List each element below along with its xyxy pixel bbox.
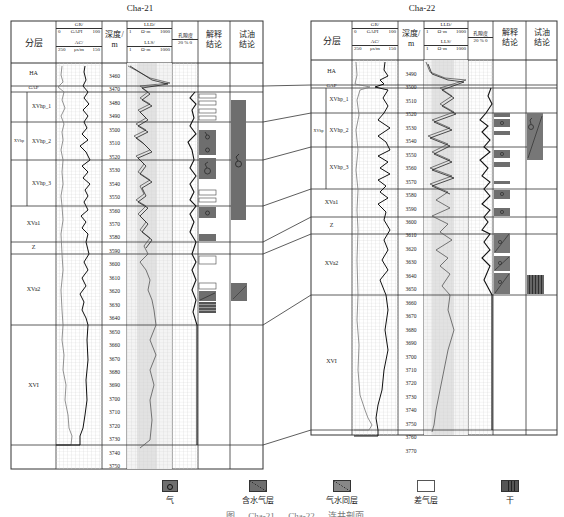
depth-tick: 3740 <box>102 447 127 460</box>
correlation-lines <box>263 85 311 445</box>
layer-group-xvhp-cha21: XVhp <box>11 138 27 143</box>
depth-tick: 3550 <box>398 149 424 162</box>
lld-unit: Ω·m <box>141 29 150 35</box>
depth-tick: 3700 <box>102 393 127 406</box>
well-correlation-diagram <box>0 0 564 517</box>
depth-scale-cha22: 3490 3500 3510 3520 3530 3540 3550 3560 … <box>398 68 424 458</box>
test-column-cha22 <box>527 113 544 294</box>
dry-swatch-icon <box>501 480 519 492</box>
depth-tick: 3620 <box>398 243 424 256</box>
depth-tick: 3510 <box>398 95 424 108</box>
ac-unit: μs/m <box>370 46 380 52</box>
gr-min: 0 <box>58 29 61 35</box>
depth-unit: m <box>102 40 127 50</box>
lls-unit: Ω·m <box>438 46 447 52</box>
layer-ha-cha21: HA <box>11 70 56 76</box>
lld-max: 1000 <box>160 29 170 35</box>
porosity-scale: 20 % 0 <box>468 38 493 44</box>
lls-max: 1000 <box>456 46 466 52</box>
layer-ha-cha22: HA <box>311 68 352 74</box>
layer-xva2-cha22: XVa2 <box>311 260 352 266</box>
depth-tick: 3520 <box>398 108 424 121</box>
lld-min: 1 <box>426 29 429 35</box>
depth-tick: 3570 <box>102 218 127 231</box>
legend-label: 气 <box>140 494 200 505</box>
depth-tick: 3540 <box>398 135 424 148</box>
depth-tick: 3770 <box>398 445 424 458</box>
legend-label: 差气层 <box>396 494 456 505</box>
gr-max: 100 <box>92 29 100 35</box>
depth-tick: 3710 <box>398 364 424 377</box>
depth-tick: 3460 <box>102 70 127 83</box>
depth-tick: 3670 <box>102 353 127 366</box>
lls-min: 1 <box>129 47 132 53</box>
lld-min: 1 <box>129 29 132 35</box>
legend-label: 气水同层 <box>312 494 372 505</box>
ac-min: 250 <box>354 46 362 52</box>
depth-tick: 3570 <box>398 176 424 189</box>
interp-column-cha22 <box>494 113 510 294</box>
depth-tick: 3650 <box>102 326 127 339</box>
ac-max: 150 <box>389 46 397 52</box>
legend-item-water-bearing-gas: 含水气层 <box>228 480 288 505</box>
depth-tick: 3490 <box>398 68 424 81</box>
gas-water-swatch-icon <box>333 480 351 492</box>
layer-xvhp2-cha22: XVhp_2 <box>326 127 352 133</box>
depth-tick: 3470 <box>102 83 127 96</box>
legend-item-gas: 气 <box>140 480 200 505</box>
figure-caption: 图 … Cha-21 … Cha-22 … 连井剖面 <box>185 509 405 517</box>
depth-tick: 3580 <box>102 231 127 244</box>
depth-tick: 3520 <box>102 151 127 164</box>
header-porosity-cha22: 孔隙度 20 % 0 <box>468 31 493 44</box>
depth-tick: 3500 <box>398 81 424 94</box>
lls-unit: Ω·m <box>141 47 150 53</box>
ac-min: 250 <box>58 47 66 53</box>
porosity-label: 孔隙度 <box>468 31 493 38</box>
lls-max: 1000 <box>160 47 170 53</box>
layer-xvhp3-cha22: XVhp_3 <box>326 164 352 170</box>
depth-tick: 3760 <box>398 431 424 444</box>
header-depth-cha22: 深度/ m <box>398 29 424 49</box>
depth-tick: 3530 <box>398 122 424 135</box>
gr-unit: GAPI <box>367 29 379 35</box>
depth-tick: 3620 <box>102 285 127 298</box>
depth-tick: 3480 <box>102 97 127 110</box>
layer-xvhp2-cha21: XVhp_2 <box>27 138 56 144</box>
depth-tick: 3530 <box>102 164 127 177</box>
legend: 气 含水气层 气水同层 差气层 干 <box>140 480 520 510</box>
ac-unit: μs/m <box>74 47 84 53</box>
depth-tick: 3540 <box>102 178 127 191</box>
depth-tick: 3750 <box>102 460 127 473</box>
layer-gap-cha21: GAP <box>11 85 56 90</box>
depth-tick: 3730 <box>102 433 127 446</box>
depth-tick: 3690 <box>398 337 424 350</box>
layer-xva2-cha21: XVa2 <box>11 286 56 292</box>
porosity-label: 孔隙度 <box>172 33 198 40</box>
layer-xvhp3-cha21: XVhp_3 <box>27 180 56 186</box>
depth-tick: 3740 <box>398 404 424 417</box>
depth-tick: 3510 <box>102 137 127 150</box>
depth-unit: m <box>398 39 424 49</box>
depth-tick: 3590 <box>102 245 127 258</box>
depth-tick: 3730 <box>398 391 424 404</box>
depth-label: 深度/ <box>102 30 127 40</box>
header-interp-cha22: 解释结论 <box>493 28 526 48</box>
depth-tick: 3500 <box>102 124 127 137</box>
depth-tick: 3640 <box>102 312 127 325</box>
header-layer-cha22: 分层 <box>311 21 352 60</box>
header-gr-ac-cha22: GR/ 0 GAPI 100 AC/ 250 μs/m 150 <box>352 22 398 52</box>
depth-tick: 3550 <box>102 191 127 204</box>
gr-min: 0 <box>354 29 357 35</box>
legend-label: 含水气层 <box>228 494 288 505</box>
header-depth-cha21: 深度/ m <box>102 30 127 50</box>
depth-tick: 3600 <box>398 216 424 229</box>
layer-xvi-cha21: XVI <box>11 382 56 388</box>
depth-tick: 3750 <box>398 418 424 431</box>
poor-gas-swatch-icon <box>417 480 435 492</box>
header-porosity-cha21: 孔隙度 20 % 0 <box>172 33 198 46</box>
gas-swatch-icon <box>162 480 178 492</box>
layer-group-xvhp-cha22: XVhp <box>311 128 326 133</box>
depth-tick: 3600 <box>102 258 127 271</box>
depth-tick: 3650 <box>398 283 424 296</box>
lld-max: 1000 <box>456 29 466 35</box>
